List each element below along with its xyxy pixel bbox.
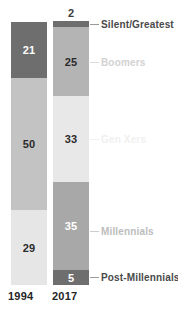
clipped-footer-artifact <box>6 310 176 320</box>
segment-value-1994-silent-greatest: 21 <box>11 45 47 56</box>
segment-value-2017-millennials: 35 <box>53 221 89 232</box>
legend-label-boomers: Boomers <box>101 58 145 68</box>
clipped-title-artifact <box>0 0 178 14</box>
legend-label-post-millennials: Post-Millennials <box>101 273 178 283</box>
segment-value-1994-boomers: 50 <box>11 139 47 150</box>
bar-2017: 2 25 33 35 5 <box>53 21 89 285</box>
connector-dash-post-millennials <box>90 277 99 278</box>
axis-label-2017: 2017 <box>52 291 77 302</box>
segment-1994-gen-xers: 29 <box>11 210 47 285</box>
segment-2017-boomers: 25 <box>53 27 89 96</box>
segment-value-2017-gen-xers: 33 <box>53 134 89 145</box>
legend-label-silent-greatest: Silent/Greatest <box>101 20 174 30</box>
segment-value-2017-post-millennials: 5 <box>53 272 89 283</box>
connector-dash-boomers <box>90 62 99 63</box>
segment-2017-gen-xers: 33 <box>53 96 89 182</box>
segment-value-2017-boomers: 25 <box>53 56 89 67</box>
segment-1994-boomers: 50 <box>11 78 47 210</box>
segment-2017-millennials: 35 <box>53 182 89 270</box>
segment-value-1994-gen-xers: 29 <box>11 242 47 253</box>
segment-1994-silent-greatest: 21 <box>11 22 47 78</box>
axis-label-1994: 1994 <box>8 291 33 302</box>
legend-label-gen-xers: Gen Xers <box>101 135 146 145</box>
bar-1994: 21 50 29 <box>11 22 47 285</box>
stacked-bar-chart: 21 50 29 2 25 33 35 5 Silent/Greatest Bo… <box>0 0 178 321</box>
connector-dash-gen-xers <box>90 139 99 140</box>
segment-value-2017-silent-greatest: 2 <box>53 8 89 19</box>
legend-label-millennials: Millennials <box>101 227 154 237</box>
segment-2017-post-millennials: 5 <box>53 270 89 285</box>
connector-dash-silent-greatest <box>90 24 99 25</box>
connector-dash-millennials <box>90 231 99 232</box>
